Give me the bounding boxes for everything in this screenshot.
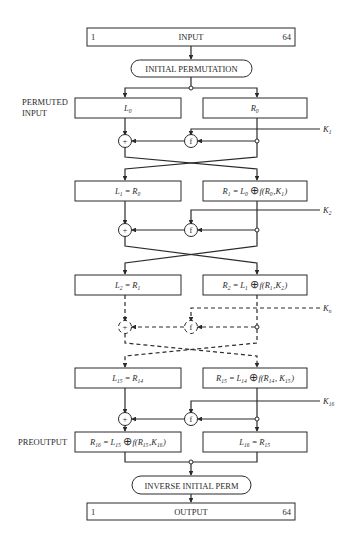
permuted-input-label-line1: PERMUTED bbox=[22, 97, 68, 107]
junction-dot bbox=[255, 325, 259, 329]
left-half-box-0-text: L0 bbox=[123, 103, 132, 114]
des-diagram: 1 INPUT 64 INITIAL PERMUTATION PERMUTED … bbox=[0, 0, 354, 549]
right-half-box-1: R1 = L0 ⊕f(R0 ,K1 ) bbox=[203, 181, 307, 201]
left-half-box-0: L0 bbox=[75, 98, 181, 118]
f-label: f bbox=[190, 136, 193, 146]
left-half-box-1-text: L1 = R0 bbox=[114, 186, 141, 197]
preoutput-right-box: L16 = R15 bbox=[203, 432, 307, 452]
input-bit-end: 64 bbox=[283, 32, 292, 42]
inverse-permutation-label: INVERSE INITIAL PERM bbox=[144, 481, 239, 491]
left-half-box-2-text: L2 = R1 bbox=[114, 280, 141, 291]
key-label-16: K16 bbox=[322, 396, 334, 407]
feistel-round-0: K1f+ bbox=[119, 118, 332, 180]
junction-dot bbox=[255, 417, 259, 421]
junction-dot bbox=[255, 228, 259, 232]
key-label-n: Kn bbox=[322, 303, 332, 314]
key-label-2: K2 bbox=[322, 205, 332, 216]
preoutput-left-box: R16 = L15 ⊕f(R15 ,K16 ) bbox=[75, 432, 181, 452]
input-box: 1 INPUT 64 bbox=[87, 28, 295, 46]
xor-symbol: + bbox=[123, 225, 128, 235]
inverse-initial-permutation: INVERSE INITIAL PERM bbox=[132, 476, 251, 494]
key-label-1: K1 bbox=[322, 124, 332, 135]
right-half-box-0-text: R0 bbox=[250, 103, 260, 114]
left-half-box-2: L2 = R1 bbox=[75, 275, 181, 295]
initial-permutation: INITIAL PERMUTATION bbox=[131, 60, 252, 77]
input-label: INPUT bbox=[178, 32, 204, 42]
right-half-box-2-text: R2 = L1 ⊕f(R1 ,K2 ) bbox=[222, 278, 288, 291]
xor-symbol: + bbox=[123, 322, 128, 332]
right-half-box-3: R15 = L14 ⊕f(R14 , K15 ) bbox=[203, 368, 307, 388]
output-label: OUTPUT bbox=[174, 507, 208, 517]
feistel-round-1: K2f+ bbox=[119, 201, 332, 274]
output-bit-start: 1 bbox=[91, 507, 95, 517]
input-bit-start: 1 bbox=[91, 32, 95, 42]
junction-dot bbox=[189, 460, 193, 464]
permuted-input-label-line2: INPUT bbox=[22, 108, 48, 118]
right-half-box-2: R2 = L1 ⊕f(R1 ,K2 ) bbox=[203, 275, 307, 295]
xor-symbol: + bbox=[123, 414, 128, 424]
initial-permutation-label: INITIAL PERMUTATION bbox=[145, 64, 237, 74]
preoutput-right-box-text: L16 = R15 bbox=[238, 437, 270, 448]
junction-dot bbox=[189, 86, 193, 90]
preoutput-label: PREOUTPUT bbox=[18, 437, 68, 447]
left-half-box-1: L1 = R0 bbox=[75, 181, 181, 201]
output-bit-end: 64 bbox=[283, 507, 292, 517]
f-label: f bbox=[190, 225, 193, 235]
right-half-box-3-text: R15 = L14 ⊕f(R14 , K15 ) bbox=[215, 371, 294, 384]
f-label: f bbox=[190, 322, 193, 332]
feistel-round-2: Knf+ bbox=[119, 295, 332, 367]
f-label: f bbox=[190, 414, 193, 424]
left-half-box-3: L15 = R14 bbox=[75, 368, 181, 388]
feistel-round-3: K16f+ bbox=[119, 388, 335, 431]
xor-symbol: + bbox=[123, 136, 128, 146]
right-half-box-0: R0 bbox=[203, 98, 307, 118]
right-half-box-1-text: R1 = L0 ⊕f(R0 ,K1 ) bbox=[222, 184, 288, 197]
left-half-box-3-text: L15 = R14 bbox=[111, 373, 143, 384]
junction-dot bbox=[255, 139, 259, 143]
output-box: 1 OUTPUT 64 bbox=[87, 503, 295, 520]
preoutput-left-box-text: R16 = L15 ⊕f(R15 ,K16 ) bbox=[89, 435, 166, 448]
